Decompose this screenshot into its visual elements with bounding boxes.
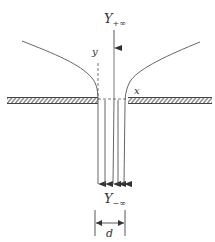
right-wall [128, 98, 212, 104]
label-slit-width-d: d [106, 228, 113, 239]
label-y-minus-infinity: Y−∞ [104, 192, 126, 205]
label-x-axis: x [134, 86, 140, 96]
label-sub: −∞ [113, 199, 126, 208]
label-main: Y [104, 191, 113, 206]
label-y-axis: y [92, 47, 98, 57]
label-y-plus-infinity: Y+∞ [104, 12, 126, 25]
streamlines [22, 41, 200, 184]
diagram-canvas: Y+∞ y x Y−∞ d [0, 0, 215, 242]
label-main: Y [104, 11, 113, 26]
streamline-center [113, 100, 114, 184]
label-sub: +∞ [113, 19, 126, 28]
left-wall [7, 98, 98, 104]
streamline-left-outer [22, 41, 98, 184]
streamline-right-outer [124, 42, 200, 184]
